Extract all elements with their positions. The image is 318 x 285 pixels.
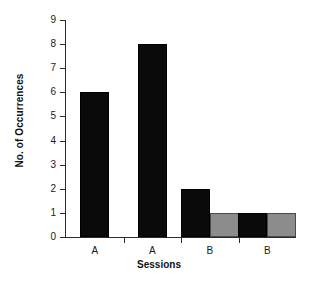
y-axis-tick xyxy=(60,116,65,117)
y-axis-tick-label: 8 xyxy=(40,39,56,49)
y-axis-tick-label: 7 xyxy=(40,63,56,73)
y-axis-tick-label: 1 xyxy=(40,208,56,218)
y-axis-tick-label: 6 xyxy=(40,87,56,97)
x-axis-group-label: A xyxy=(132,245,172,257)
y-axis-tick-label: 3 xyxy=(40,160,56,170)
bar xyxy=(210,213,239,237)
y-axis-tick-label: 0 xyxy=(40,232,56,242)
y-axis-tick xyxy=(60,68,65,69)
bar xyxy=(238,213,267,237)
x-axis-group-label: B xyxy=(190,245,230,257)
bar xyxy=(267,213,296,237)
bar xyxy=(138,44,167,237)
plot-area xyxy=(66,20,296,237)
y-axis-title: No. of Occurrences xyxy=(10,0,28,240)
y-axis-tick xyxy=(60,213,65,214)
y-axis-tick-label: 9 xyxy=(40,15,56,25)
x-axis-tick xyxy=(181,238,182,243)
x-axis-title: Sessions xyxy=(0,259,318,270)
y-axis-tick xyxy=(60,20,65,21)
y-axis-tick-label: 5 xyxy=(40,111,56,121)
y-axis-tick xyxy=(60,189,65,190)
x-axis-tick xyxy=(239,238,240,243)
y-axis-tick-label: 4 xyxy=(40,136,56,146)
bar-chart-figure: No. of Occurrences 0123456789 AABB Sessi… xyxy=(0,0,318,285)
y-axis-tick-label: 2 xyxy=(40,184,56,194)
bar xyxy=(80,92,109,237)
bar xyxy=(181,189,210,237)
y-axis-tick xyxy=(60,92,65,93)
y-axis-tick xyxy=(60,44,65,45)
y-axis-tick xyxy=(60,237,65,238)
y-axis-tick xyxy=(60,165,65,166)
x-axis-group-label: A xyxy=(75,245,115,257)
x-axis-group-label: B xyxy=(247,245,287,257)
y-axis-title-text: No. of Occurrences xyxy=(14,73,25,167)
y-axis-tick xyxy=(60,141,65,142)
x-axis-tick xyxy=(124,238,125,243)
